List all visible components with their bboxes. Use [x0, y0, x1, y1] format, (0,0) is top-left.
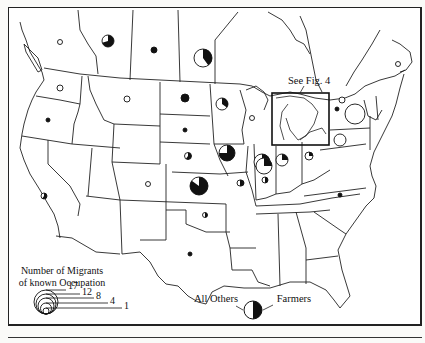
- symbol-washington: [57, 85, 63, 91]
- symbol-colorado: [146, 182, 151, 187]
- bc-alberta-border: [78, 10, 98, 74]
- alberta-sask-border: [130, 10, 133, 80]
- al-ga: [296, 212, 306, 284]
- symbol-montana: [124, 96, 130, 102]
- legend-size-label-17: 17: [68, 280, 78, 291]
- fig4-box: [272, 93, 329, 145]
- ne-ks: [172, 172, 220, 174]
- symbol-south-dakota: [183, 128, 187, 132]
- ms-al: [278, 214, 280, 286]
- hudson-bay: [268, 12, 310, 54]
- symbol-wisconsin: [250, 116, 255, 121]
- legend-pie-farmers-half: [253, 301, 262, 319]
- symbol-california: [41, 193, 47, 199]
- or-ca-border: [22, 136, 72, 144]
- pacific-coastline: [20, 22, 60, 238]
- symbol-ohio: [305, 152, 313, 160]
- ia-mo: [220, 172, 248, 174]
- nd-sd: [160, 114, 210, 116]
- manitoba-ontario-border: [215, 12, 238, 84]
- symbol-kentucky: [237, 180, 243, 186]
- nm-tx: [122, 202, 206, 304]
- mo-ar: [226, 204, 256, 248]
- legend-circle-12: [36, 294, 56, 314]
- symbol-oregon: [46, 118, 50, 122]
- symbol-saskatchewan: [151, 47, 157, 53]
- callout-leader: [300, 86, 304, 93]
- legend-title-line1: Number of Migrants: [21, 265, 103, 276]
- il-in: [254, 144, 256, 200]
- wy-box: [112, 124, 160, 164]
- wa-id-border: [78, 76, 82, 112]
- symbol-ontario-east: [339, 97, 345, 103]
- symbol-west-penn: [334, 134, 346, 146]
- symbol-texas: [188, 252, 192, 256]
- legend-size-label-12: 12: [82, 286, 92, 297]
- oh-ky-river: [256, 170, 330, 200]
- symbol-kansas: [190, 177, 208, 195]
- great-lakes-west: [246, 86, 268, 110]
- ga-fl: [306, 256, 338, 260]
- wa-or-border: [36, 96, 80, 104]
- symbol-new-brunswick: [396, 62, 401, 67]
- symbol-alberta: [102, 35, 114, 47]
- new-england: [364, 96, 382, 120]
- dakotas-mn: [210, 84, 228, 176]
- ga-sc: [314, 212, 346, 234]
- nv-ut-border: [88, 148, 92, 196]
- legend-size-label-8: 8: [96, 290, 101, 301]
- symbol-quebec-dot: [335, 107, 339, 111]
- sd-ne: [160, 142, 210, 144]
- sask-manitoba-border: [178, 10, 180, 82]
- symbol-new-york: [345, 104, 365, 124]
- map-canvas: See Fig. 4 Number of Migrants of known O…: [0, 0, 425, 343]
- all-others-leader: [236, 306, 243, 310]
- legend-farmers-label: Farmers: [277, 293, 311, 304]
- symbol-nebraska: [185, 153, 192, 160]
- maritimes: [346, 30, 412, 86]
- symbol-manitoba: [194, 49, 212, 67]
- legend-size-label-1: 1: [124, 300, 129, 311]
- farmers-leader: [263, 305, 273, 310]
- symbol-illinois: [256, 158, 272, 174]
- legend-circle-1: [43, 308, 49, 314]
- ut-az-border: [86, 196, 120, 200]
- size-legend: Number of Migrants of known Occupation 1…: [19, 265, 129, 314]
- ca-nv-border: [48, 140, 80, 216]
- see-fig4-callout: See Fig. 4: [272, 75, 331, 145]
- az-nm-border: [120, 200, 122, 254]
- legend-circle-8: [38, 298, 54, 314]
- boundaries: [20, 10, 412, 308]
- great-lakes-outline: [276, 96, 326, 140]
- symbol-oklahoma: [203, 213, 208, 218]
- symbol-north-carolina: [338, 193, 342, 197]
- pie-legend: All Others Farmers: [194, 293, 311, 319]
- symbol-indiana-small: [262, 177, 268, 183]
- atlantic-coast: [366, 74, 404, 206]
- ok-tx: [166, 210, 230, 232]
- callout-label: See Fig. 4: [288, 75, 331, 86]
- legend-all-others-label: All Others: [194, 293, 238, 304]
- tn-ms: [256, 210, 330, 214]
- symbol-north-dakota: [181, 94, 189, 102]
- legend-size-label-4: 4: [110, 295, 115, 306]
- az-mx-border: [56, 236, 120, 254]
- symbol-british-columbia: [58, 40, 63, 45]
- mn-wi: [240, 90, 246, 144]
- or-id-border: [72, 112, 78, 144]
- ks-ok: [172, 202, 226, 204]
- symbol-minnesota: [216, 98, 228, 110]
- ut-co: [112, 162, 172, 202]
- symbol-indiana: [276, 154, 288, 166]
- symbol-iowa: [219, 145, 235, 161]
- id-mt-border: [88, 76, 114, 124]
- ar-la: [230, 248, 270, 286]
- legend-title-line2: of known Occupation: [19, 277, 106, 288]
- legend-circle-4: [41, 303, 52, 314]
